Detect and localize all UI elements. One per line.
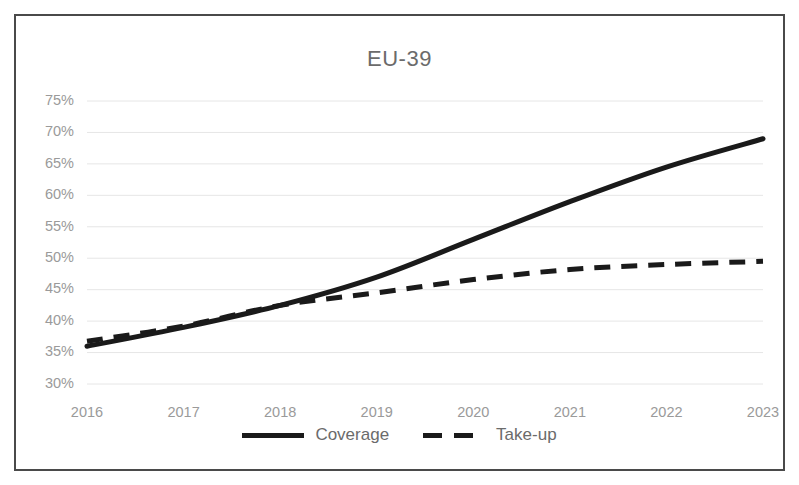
legend-label-takeup: Take-up [496, 425, 556, 445]
y-axis-tick-label: 45% [45, 280, 74, 296]
data-series-group [87, 139, 763, 347]
y-axis-tick-label: 50% [45, 249, 74, 265]
chart-container: EU-39 75%70%65%60%55%50%45%40%35%30% 201… [14, 14, 785, 471]
legend-swatch-solid-icon [242, 433, 304, 438]
legend-item-coverage[interactable]: Coverage [242, 425, 389, 445]
x-axis-tick-label: 2021 [554, 404, 586, 420]
x-axis-tick-label: 2019 [361, 404, 393, 420]
y-axis-tick-label: 65% [45, 155, 74, 171]
x-axis-tick-label: 2022 [650, 404, 682, 420]
y-axis-tick-labels: 75%70%65%60%55%50%45%40%35%30% [45, 92, 74, 391]
legend-label-coverage: Coverage [315, 425, 389, 445]
chart-legend: Coverage Take-up [16, 425, 783, 445]
y-axis-tick-label: 60% [45, 186, 74, 202]
chart-plot-area: 75%70%65%60%55%50%45%40%35%30% 201620172… [16, 16, 787, 473]
series-line-coverage [87, 139, 763, 347]
y-axis-tick-label: 40% [45, 312, 74, 328]
series-line-take-up [87, 261, 763, 341]
x-axis-tick-label: 2017 [167, 404, 199, 420]
x-axis-tick-label: 2016 [71, 404, 103, 420]
x-axis-tick-label: 2018 [264, 404, 296, 420]
y-axis-tick-label: 55% [45, 218, 74, 234]
legend-item-takeup[interactable]: Take-up [423, 425, 556, 445]
legend-swatch-dashed-icon [423, 433, 485, 438]
y-axis-tick-label: 30% [45, 375, 74, 391]
gridlines-group [87, 101, 763, 384]
x-axis-tick-label: 2023 [747, 404, 779, 420]
y-axis-tick-label: 75% [45, 92, 74, 108]
x-axis-tick-labels: 20162017201820192020202120222023 [71, 404, 779, 420]
y-axis-tick-label: 70% [45, 123, 74, 139]
x-axis-tick-label: 2020 [457, 404, 489, 420]
y-axis-tick-label: 35% [45, 343, 74, 359]
